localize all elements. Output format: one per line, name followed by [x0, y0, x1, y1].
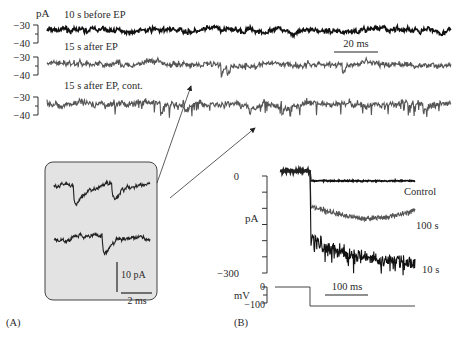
panel-a-ylabel: pA: [36, 7, 50, 19]
axis-a-row-2: −30−40: [14, 92, 38, 121]
panel-b-ylabel: pA: [245, 212, 259, 224]
trace-label-after-ep: 15 s after EP: [64, 41, 118, 52]
panel-b-ytick-0: 0: [234, 171, 239, 182]
ytick-label: −30: [14, 52, 30, 63]
inset-panel: 10 pA 2 ms: [45, 162, 157, 306]
panel-b-label: (B): [234, 317, 249, 329]
panel-a: pA −30−40−30−40−30−40 10 s before EP 15 …: [14, 7, 451, 121]
scale-bar-100ms-label: 100 ms: [332, 281, 363, 292]
trace-b-control: [310, 171, 415, 182]
y-axis-bracket: [33, 97, 38, 115]
inset-scale-bar-y-label: 10 pA: [121, 269, 147, 280]
ytick-label: −40: [14, 70, 30, 81]
ytick-label: −30: [14, 92, 30, 103]
ytick-label: −40: [14, 38, 30, 49]
trace-label-control: Control: [404, 186, 436, 197]
holding-current-trace: [281, 169, 310, 173]
ytick-label: −30: [14, 20, 30, 31]
trace-label-10s: 10 s: [422, 264, 439, 275]
trace-b-100-s: [310, 171, 415, 221]
scale-bar-20ms-label: 20 ms: [343, 38, 368, 49]
panel-b: pA 0 −300 mV 0 −100 Control 100 s 10 s 1…: [217, 169, 439, 310]
inset-scale-bar-x-label: 2 ms: [127, 295, 146, 306]
trace-a-2: [47, 98, 451, 118]
panel-b-ytick-minus300: −300: [217, 268, 239, 279]
axis-a-row-1: −30−40: [14, 52, 38, 81]
trace-label-before-ep: 10 s before EP: [64, 9, 126, 20]
figure: pA −30−40−30−40−30−40 10 s before EP 15 …: [0, 0, 459, 339]
y-axis-bracket: [33, 57, 38, 75]
panel-b-vtick-minus100: −100: [244, 299, 265, 310]
trace-a-0: [47, 25, 451, 36]
trace-b-10-s: [310, 171, 415, 275]
ytick-label: −40: [14, 110, 30, 121]
y-axis-bracket: [33, 25, 38, 43]
trace-a-1: [47, 58, 451, 77]
arrow-to-trace-3: [170, 128, 255, 198]
panel-a-label: (A): [6, 317, 21, 329]
trace-label-after-ep-cont: 15 s after EP, cont.: [64, 80, 143, 91]
arrow-to-trace-2: [157, 86, 191, 183]
arrow-helper: [157, 200, 175, 253]
axis-a-row-0: −30−40: [14, 20, 38, 49]
panel-b-vtick-0: 0: [260, 281, 265, 292]
trace-label-100s: 100 s: [416, 220, 438, 231]
arrows: [157, 86, 255, 253]
